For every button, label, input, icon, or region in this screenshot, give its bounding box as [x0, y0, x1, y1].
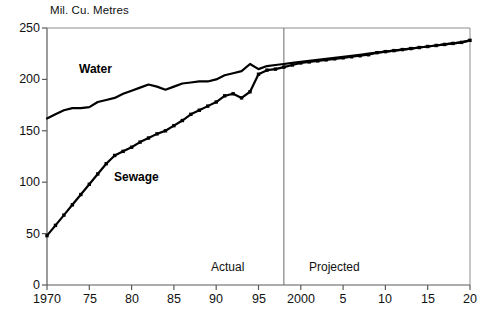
water-sewage-line-chart: Mil. Cu. Metres 250 200 150 100 50 0 197…: [0, 0, 496, 321]
plot-canvas: [0, 0, 496, 321]
axis-frame: [47, 28, 470, 285]
series-line-water: [47, 40, 470, 118]
y-tick-marks: [42, 28, 47, 285]
x-tick-marks: [47, 285, 470, 290]
